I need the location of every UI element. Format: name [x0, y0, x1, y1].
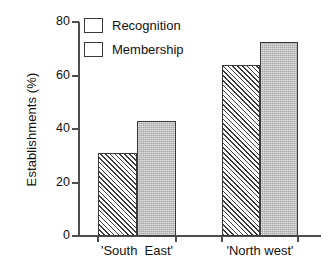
y-tick-80	[72, 21, 79, 23]
bar-recognition-north-west	[222, 65, 260, 236]
x-tick-3	[221, 236, 223, 242]
legend: Recognition Membership	[84, 14, 184, 62]
y-tick-0	[72, 235, 79, 237]
legend-swatch-recognition-icon	[84, 18, 103, 33]
x-tick-1	[97, 236, 99, 242]
legend-label-recognition: Recognition	[112, 18, 181, 33]
y-tick-40	[72, 128, 79, 130]
bar-membership-north-west	[260, 42, 298, 236]
y-tick-label-40: 40	[44, 121, 70, 135]
legend-label-membership: Membership	[112, 42, 184, 57]
y-tick-60	[72, 75, 79, 77]
x-axis-label-north-west: 'North west'	[205, 243, 315, 258]
y-tick-label-20: 20	[44, 175, 70, 189]
y-tick-label-80: 80	[44, 14, 70, 28]
legend-item-membership: Membership	[84, 38, 184, 60]
x-axis-label-south-east: 'South East'	[77, 243, 197, 258]
bar-chart: Establishments (%) 80 60 40 20 0 'South …	[0, 0, 330, 271]
x-tick-2	[175, 236, 177, 242]
x-tick-4	[297, 236, 299, 242]
legend-swatch-membership-icon	[84, 42, 103, 57]
y-tick-label-0: 0	[44, 228, 70, 242]
legend-item-recognition: Recognition	[84, 14, 184, 36]
y-tick-20	[72, 182, 79, 184]
y-axis-title: Establishments (%)	[24, 25, 39, 235]
y-tick-label-60: 60	[44, 68, 70, 82]
bar-recognition-south-east	[98, 153, 137, 236]
bar-membership-south-east	[137, 121, 176, 236]
